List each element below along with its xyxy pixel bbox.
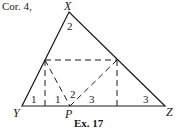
angle-mid-left-label: 2 <box>70 89 76 100</box>
triangle-diagram <box>0 0 183 133</box>
corollary-label: Cor. 4, <box>2 1 32 12</box>
triangle-xyz <box>22 12 165 106</box>
angle-apex-label: 2 <box>67 21 73 32</box>
figure-caption: Ex. 17 <box>74 118 103 129</box>
angle-mid-right-label: 3 <box>89 94 95 105</box>
vertex-y-label: Y <box>13 107 20 119</box>
vertex-z-label: Z <box>166 106 173 118</box>
angle-left-outer-label: 1 <box>31 94 37 105</box>
point-p-label: P <box>65 108 72 120</box>
angle-right-label: 3 <box>143 94 149 105</box>
angle-left-inner-label: 1 <box>55 94 61 105</box>
vertex-x-label: X <box>64 0 71 12</box>
triangle-figure: Cor. 4, X Y Z P 2 1 1 2 3 3 Ex. 17 <box>0 0 183 133</box>
